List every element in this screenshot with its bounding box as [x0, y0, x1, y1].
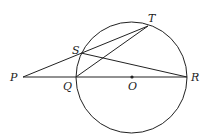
segment-pt — [23, 26, 148, 77]
label-s: S — [72, 44, 80, 57]
geometry-diagram: P Q O R S T — [0, 0, 206, 137]
label-r: R — [190, 71, 199, 84]
center-point-o — [130, 75, 133, 78]
label-q: Q — [63, 80, 72, 93]
label-o: O — [128, 80, 137, 93]
label-p: P — [9, 71, 18, 84]
segment-sr — [81, 53, 187, 77]
label-t: T — [148, 12, 157, 25]
